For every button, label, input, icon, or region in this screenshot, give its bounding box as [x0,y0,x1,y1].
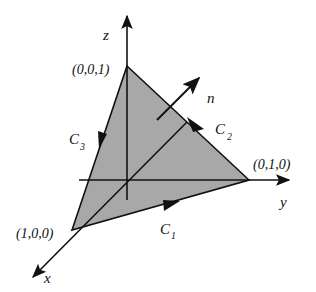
svg-text:C: C [215,121,226,137]
svg-text:C: C [69,131,80,147]
svg-text:C: C [160,221,171,237]
vertex-x-label: (1,0,0) [16,226,54,242]
y-axis-label: y [278,194,287,210]
svg-text:1: 1 [171,230,176,241]
c1-arrow-icon [163,200,180,211]
c3-label: C 3 [69,131,85,152]
z-axis-label: z [102,27,109,43]
x-axis-label: x [43,270,51,286]
c1-label: C 1 [160,221,176,241]
surface-diagram: z y x (0,0,1) (0,1,0) (1,0,0) n C 1 C 2 … [0,0,316,292]
svg-text:2: 2 [227,131,232,142]
vertex-z-label: (0,0,1) [72,62,110,78]
normal-label: n [207,90,215,106]
c2-label: C 2 [215,121,232,142]
vertex-y-label: (0,1,0) [253,157,291,173]
svg-text:3: 3 [79,141,85,152]
